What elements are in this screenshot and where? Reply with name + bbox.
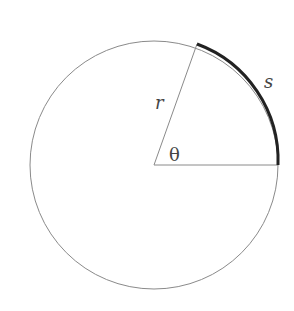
angle-label: θ [169, 144, 180, 165]
radius-label: r [155, 92, 165, 113]
arc-s [197, 44, 278, 165]
arc-length-diagram: r s θ [0, 0, 294, 311]
arc-label: s [264, 71, 273, 92]
